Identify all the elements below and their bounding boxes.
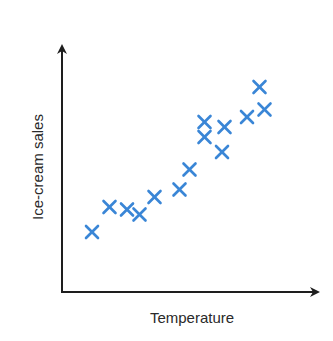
x-marker xyxy=(174,184,186,196)
scatter-chart: Temperature Ice-cream sales xyxy=(0,0,333,341)
x-marker xyxy=(254,81,266,93)
x-marker xyxy=(104,201,116,213)
x-marker xyxy=(219,121,231,133)
data-points xyxy=(86,81,271,238)
x-axis-label: Temperature xyxy=(150,309,234,326)
x-marker xyxy=(184,164,196,176)
x-marker xyxy=(121,204,133,216)
x-marker xyxy=(199,131,211,143)
x-marker xyxy=(241,111,253,123)
x-marker xyxy=(149,191,161,203)
x-marker xyxy=(216,146,228,158)
x-marker xyxy=(259,104,271,116)
x-marker xyxy=(134,209,146,221)
x-marker xyxy=(86,226,98,238)
x-marker xyxy=(199,116,211,128)
y-axis-label: Ice-cream sales xyxy=(29,114,46,220)
